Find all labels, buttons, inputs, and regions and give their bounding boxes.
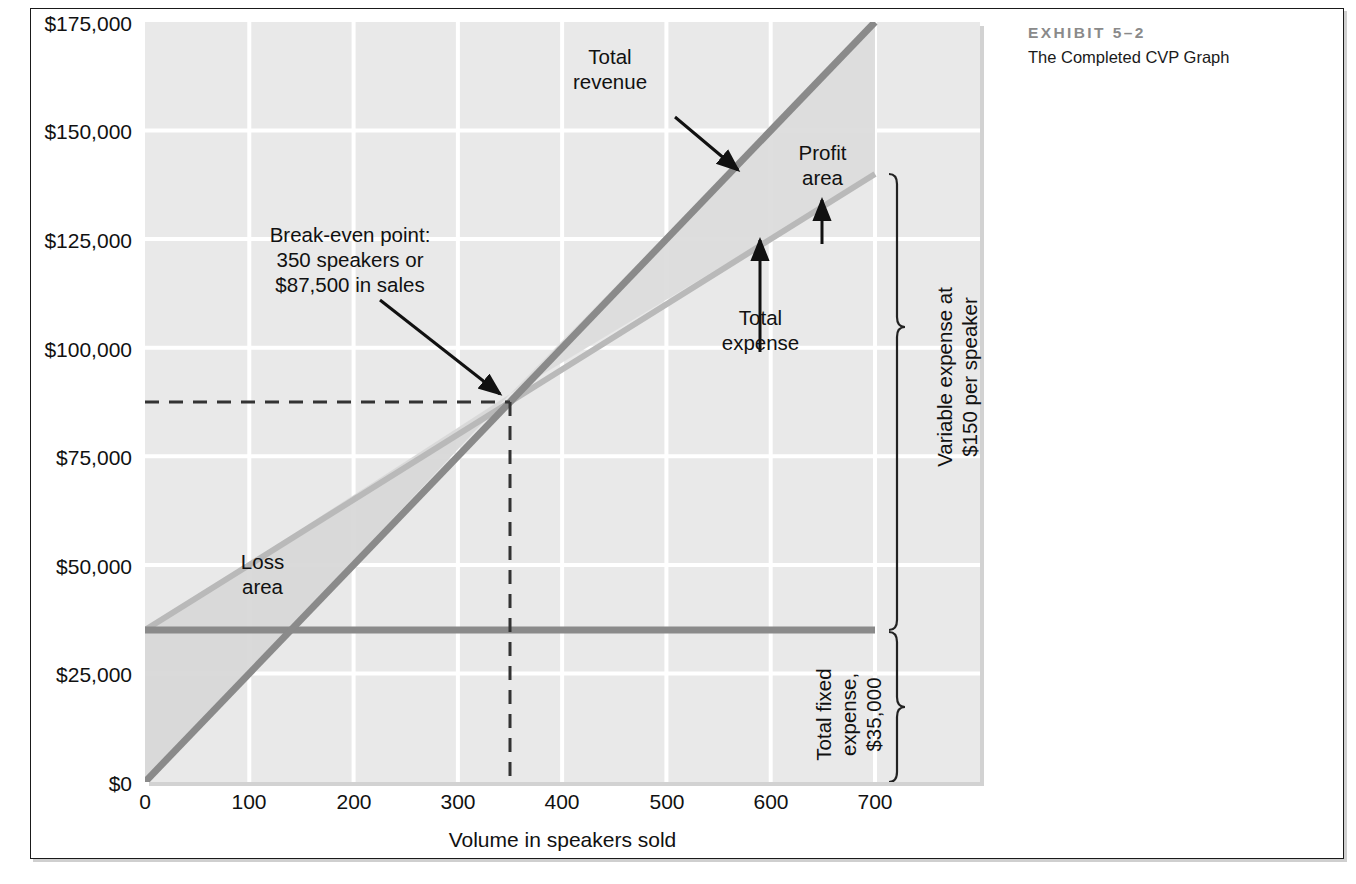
fixed-expense-label-line3: $35,000 <box>861 620 886 810</box>
x-tick-600: 600 <box>731 790 811 814</box>
variable-expense-bracket-label: Variable expense at $150 per speaker <box>932 167 982 587</box>
breakeven-label-line1: Break-even point: <box>200 222 500 247</box>
exhibit-title: The Completed CVP Graph <box>1028 46 1328 68</box>
x-tick-100: 100 <box>209 790 289 814</box>
profit-area-label: Profit area <box>755 140 890 190</box>
variable-expense-bracket <box>889 174 905 630</box>
plot-area: Total revenue Profit area Total expense … <box>145 22 980 782</box>
loss-area-label: Loss area <box>165 549 360 599</box>
x-tick-0: 0 <box>105 790 185 814</box>
total-revenue-arrow <box>675 117 738 170</box>
y-tick-50000: $50,000 <box>8 555 132 579</box>
x-tick-700: 700 <box>835 790 915 814</box>
total-expense-label-line1: Total <box>693 305 828 330</box>
profit-area-label-line1: Profit <box>755 140 890 165</box>
exhibit-caption: EXHIBIT 5–2 The Completed CVP Graph <box>1028 22 1328 68</box>
breakeven-label-line3: $87,500 in sales <box>200 272 500 297</box>
profit-area-label-line2: area <box>755 165 890 190</box>
total-revenue-label-line2: revenue <box>540 69 680 94</box>
fixed-expense-label-line2: expense, <box>836 620 861 810</box>
total-revenue-label: Total revenue <box>540 44 680 94</box>
y-tick-75000: $75,000 <box>8 446 132 470</box>
y-tick-100000: $100,000 <box>8 338 132 362</box>
fixed-expense-label-line1: Total fixed <box>811 620 836 810</box>
x-tick-300: 300 <box>418 790 498 814</box>
total-expense-label-line2: expense <box>693 330 828 355</box>
fixed-expense-bracket <box>889 632 905 782</box>
x-axis-title: Volume in speakers sold <box>145 828 980 852</box>
variable-expense-label-line1: Variable expense at <box>932 167 957 587</box>
fixed-expense-bracket-label: Total fixed expense, $35,000 <box>811 620 886 810</box>
total-expense-label: Total expense <box>693 305 828 355</box>
cvp-graph-figure: EXHIBIT 5–2 The Completed CVP Graph <box>0 0 1356 884</box>
x-tick-500: 500 <box>627 790 707 814</box>
y-tick-150000: $150,000 <box>8 120 132 144</box>
variable-expense-label-line2: $150 per speaker <box>957 167 982 587</box>
breakeven-label-line2: 350 speakers or <box>200 247 500 272</box>
exhibit-number: EXHIBIT 5–2 <box>1028 22 1328 44</box>
x-tick-400: 400 <box>522 790 602 814</box>
y-tick-125000: $125,000 <box>8 229 132 253</box>
loss-area-label-line2: area <box>165 574 360 599</box>
y-tick-25000: $25,000 <box>8 663 132 687</box>
breakeven-label: Break-even point: 350 speakers or $87,50… <box>200 222 500 297</box>
loss-area-label-line1: Loss <box>165 549 360 574</box>
y-tick-175000: $175,000 <box>8 12 132 36</box>
total-revenue-label-line1: Total <box>540 44 680 69</box>
x-tick-200: 200 <box>314 790 394 814</box>
